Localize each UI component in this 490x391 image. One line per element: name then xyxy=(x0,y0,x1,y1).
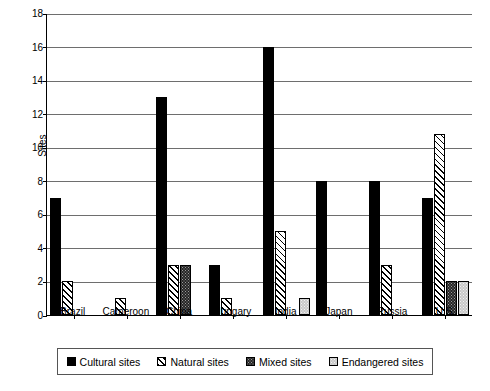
bar-cultural xyxy=(156,97,167,315)
bar-slot xyxy=(168,14,179,315)
legend-swatch-icon xyxy=(157,357,166,366)
bar-slot xyxy=(50,14,61,315)
bar-slot xyxy=(405,14,416,315)
bar-slot xyxy=(299,14,310,315)
x-tick-label: China xyxy=(166,306,192,317)
legend-label: Cultural sites xyxy=(80,356,141,368)
y-tick-label: 6 xyxy=(37,210,43,220)
x-tick-label: India xyxy=(275,306,297,317)
bar-slot xyxy=(458,14,469,315)
y-tick-label: 10 xyxy=(32,143,43,153)
bar-slot xyxy=(352,14,363,315)
bar-group xyxy=(313,14,366,315)
legend-item-endangered[interactable]: Endangered sites xyxy=(329,356,424,368)
bar-slot xyxy=(103,14,114,315)
y-tick-label: 2 xyxy=(37,277,43,287)
bar-slot xyxy=(86,14,97,315)
bar-slot xyxy=(287,14,298,315)
legend-label: Endangered sites xyxy=(342,356,424,368)
bar-group xyxy=(100,14,153,315)
y-tick-label: 16 xyxy=(32,43,43,53)
legend-item-cultural[interactable]: Cultural sites xyxy=(67,356,141,368)
bar-slot xyxy=(393,14,404,315)
bar-slot xyxy=(74,14,85,315)
bar-slot xyxy=(221,14,232,315)
y-tick-label: 8 xyxy=(37,177,43,187)
legend-swatch-icon xyxy=(329,357,338,366)
bar-slot xyxy=(233,14,244,315)
y-tick-mark xyxy=(43,316,47,317)
bar-group xyxy=(153,14,206,315)
y-tick-label: 4 xyxy=(37,244,43,254)
legend-item-mixed[interactable]: Mixed sites xyxy=(246,356,312,368)
bar-group xyxy=(47,14,100,315)
legend-swatch-icon xyxy=(67,357,76,366)
bar-slot xyxy=(245,14,256,315)
bar-cultural xyxy=(316,181,327,315)
bar-slot xyxy=(115,14,126,315)
bar-slot xyxy=(209,14,220,315)
x-tick-label: Brazil xyxy=(60,306,85,317)
bar-slot xyxy=(434,14,445,315)
bar-group xyxy=(206,14,259,315)
bar-slot xyxy=(446,14,457,315)
bar-group xyxy=(260,14,313,315)
y-tick-label: 12 xyxy=(32,110,43,120)
bar-slot xyxy=(381,14,392,315)
bar-slot xyxy=(156,14,167,315)
x-tick-label: Hungary xyxy=(213,306,251,317)
bar-slot xyxy=(275,14,286,315)
x-tick-label: Cameroon xyxy=(103,306,150,317)
bar-slot xyxy=(316,14,327,315)
bar-cultural xyxy=(369,181,380,315)
bar-slot xyxy=(422,14,433,315)
legend-swatch-icon xyxy=(246,357,255,366)
bar-slot xyxy=(127,14,138,315)
bar-slot xyxy=(340,14,351,315)
x-tick-label: U.S. xyxy=(436,306,455,317)
y-tick-label: 0 xyxy=(37,311,43,321)
legend-label: Mixed sites xyxy=(259,356,312,368)
y-tick-label: 14 xyxy=(32,76,43,86)
chart-figure: Sites 024681012141618 BrazilCameroonChin… xyxy=(0,0,490,391)
x-tick-label: Japan xyxy=(325,306,352,317)
bar-natural xyxy=(275,231,286,315)
bar-slot xyxy=(180,14,191,315)
bar-cultural xyxy=(263,47,274,315)
bar-group xyxy=(419,14,472,315)
bar-slot xyxy=(328,14,339,315)
bar-cultural xyxy=(50,198,61,315)
bar-slot xyxy=(263,14,274,315)
legend-label: Natural sites xyxy=(170,356,228,368)
bar-cultural xyxy=(422,198,433,315)
bar-slot xyxy=(369,14,380,315)
bar-endangered xyxy=(458,281,469,315)
plot-area: 024681012141618 xyxy=(46,14,472,316)
bar-natural xyxy=(434,134,445,315)
chart-legend: Cultural sitesNatural sitesMixed sitesEn… xyxy=(57,348,433,375)
legend-item-natural[interactable]: Natural sites xyxy=(157,356,228,368)
bar-group xyxy=(366,14,419,315)
x-tick-label: Russia xyxy=(377,306,408,317)
y-tick-label: 18 xyxy=(32,9,43,19)
bar-slot xyxy=(62,14,73,315)
bar-endangered xyxy=(299,298,310,315)
bar-slot xyxy=(192,14,203,315)
bar-groups xyxy=(47,14,472,315)
bar-slot xyxy=(139,14,150,315)
